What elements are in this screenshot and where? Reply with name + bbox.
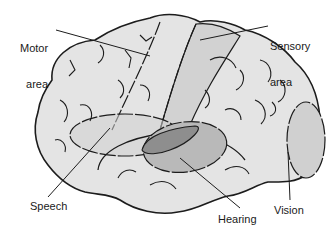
- label-sensory-line2: area: [270, 76, 310, 88]
- label-motor-line2: area: [26, 78, 48, 90]
- label-speech: Speech: [30, 200, 67, 212]
- label-motor-area: Motor area: [20, 18, 48, 114]
- label-sensory-area: Sensory area: [270, 16, 310, 112]
- label-sensory-line1: Sensory: [270, 40, 310, 52]
- label-vision: Vision: [274, 204, 304, 216]
- label-hearing: Hearing: [218, 213, 257, 225]
- vision-area-region: [287, 102, 325, 178]
- label-motor-line1: Motor: [20, 42, 48, 54]
- brain-diagram: Motor area Sensory area Speech Hearing V…: [0, 0, 332, 235]
